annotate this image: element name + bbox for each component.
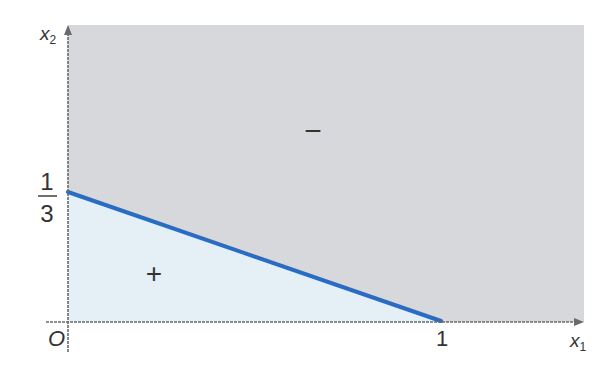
negative-sign-label: − — [304, 114, 322, 147]
svg-text:1: 1 — [40, 168, 53, 195]
x-axis-label: x1 — [569, 330, 587, 354]
origin-label: O — [48, 326, 65, 351]
y-tick-one-third: 1 3 — [38, 168, 57, 227]
decision-region-chart: x2 x1 1 3 O 1 − + — [0, 0, 615, 371]
positive-sign-label: + — [146, 258, 162, 289]
y-axis-label: x2 — [39, 23, 57, 47]
svg-text:3: 3 — [40, 200, 53, 227]
x-tick-one: 1 — [436, 326, 448, 351]
